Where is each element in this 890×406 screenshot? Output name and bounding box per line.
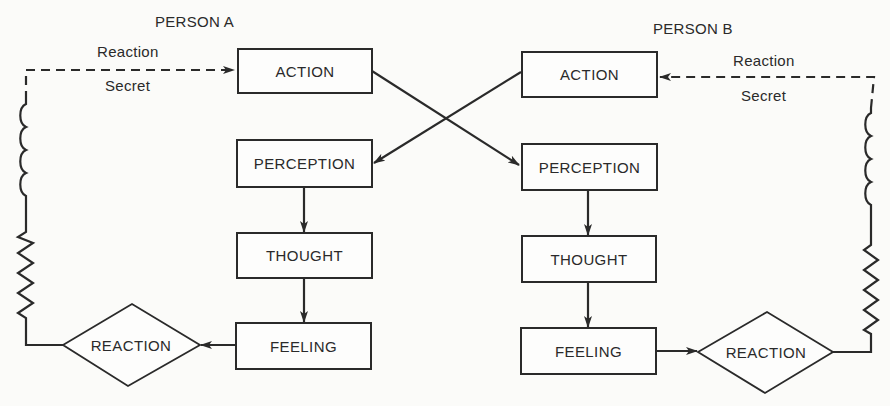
person-a-reaction-label: Reaction [97,43,159,60]
person-b-secret-label: Secret [741,87,786,104]
person-a-title: PERSON A [155,13,234,30]
thought-box-a: THOUGHT [236,232,373,279]
action-box-b: ACTION [521,51,658,98]
reaction-label-b: REACTION [726,344,807,361]
feeling-box-a: FEELING [235,322,372,370]
person-b-reaction-label: Reaction [733,52,795,69]
feeling-box-b: FEELING [520,327,657,375]
reaction-label-a: REACTION [91,337,172,354]
action-box-a: ACTION [237,48,373,94]
feedback-loop-a [18,100,63,345]
perception-box-a: PERCEPTION [236,139,373,188]
person-b-title: PERSON B [653,20,733,37]
thought-box-b: THOUGHT [521,235,657,283]
perception-box-b: PERCEPTION [521,143,658,191]
person-a-secret-label: Secret [105,77,150,94]
feedback-loop-b [833,108,878,352]
